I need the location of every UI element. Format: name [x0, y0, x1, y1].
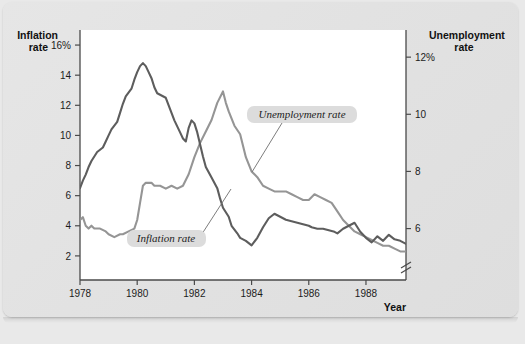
right-axis-title-line2: rate [454, 41, 473, 53]
right-tick-label: 10 [415, 109, 427, 120]
inflation-unemployment-chart: 246810121416% 681012% 197819801982198419… [0, 0, 525, 344]
left-axis-ticks: 246810121416% [51, 40, 80, 262]
left-tick-label: 4 [65, 220, 71, 231]
left-tick-label: 6 [65, 190, 71, 201]
x-tick-label: 1984 [240, 288, 263, 299]
left-tick-label: 12 [60, 100, 72, 111]
inflation-annotation-label: Inflation rate [136, 232, 195, 244]
right-axis-title-line1: Unemployment [429, 29, 505, 41]
x-tick-label: 1980 [126, 288, 149, 299]
left-tick-label: 10 [60, 130, 72, 141]
right-tick-label: 12% [415, 52, 435, 63]
inflation-annotation: Inflation rate [127, 230, 206, 247]
x-tick-label: 1986 [298, 288, 321, 299]
right-tick-label: 8 [415, 166, 421, 177]
unemployment-annotation: Unemployment rate [247, 106, 357, 123]
x-tick-label: 1978 [69, 288, 92, 299]
x-tick-label: 1982 [183, 288, 206, 299]
right-tick-label: 6 [415, 223, 421, 234]
left-axis-title-line1: Inflation [17, 29, 58, 41]
left-tick-label: 2 [65, 251, 71, 262]
left-axis-title-line2: rate [29, 41, 48, 53]
x-tick-label: 1988 [355, 288, 378, 299]
right-axis-ticks: 681012% [406, 52, 435, 234]
left-tick-label: 8 [65, 160, 71, 171]
x-axis-ticks: 197819801982198419861988 [69, 280, 378, 299]
x-axis-title: Year [384, 301, 406, 313]
left-tick-label: 14 [60, 70, 72, 81]
unemployment-annotation-label: Unemployment rate [258, 108, 345, 120]
left-tick-label: 16% [51, 40, 71, 51]
